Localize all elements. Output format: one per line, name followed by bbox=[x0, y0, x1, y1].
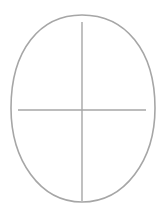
face-guide-svg bbox=[0, 0, 162, 214]
face-guide-diagram bbox=[0, 0, 162, 214]
head-outline-oval bbox=[11, 15, 155, 202]
